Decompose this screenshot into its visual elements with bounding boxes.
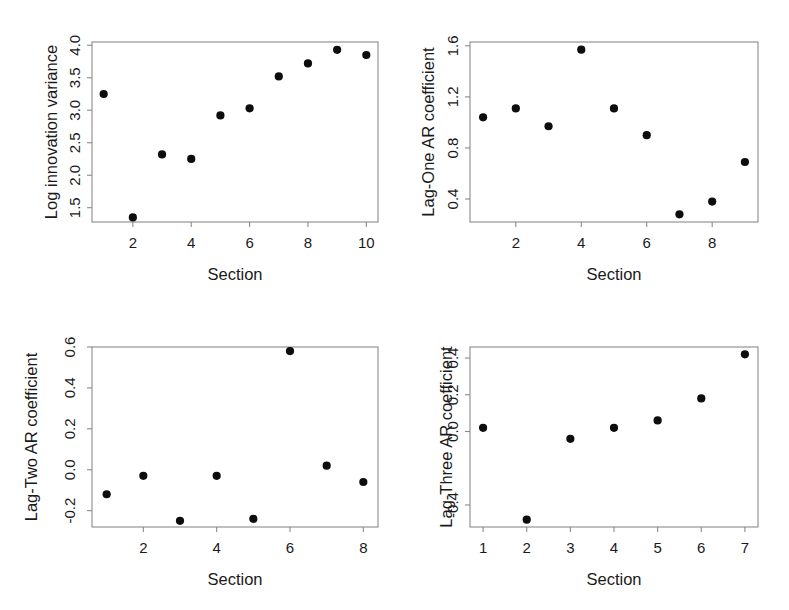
y-axis-title: Lag-Two AR coefficient: [22, 352, 40, 521]
y-tick-label: 0.4: [61, 377, 78, 398]
y-tick-label: -0.2: [61, 498, 78, 524]
data-point: [187, 155, 195, 163]
x-tick-label: 6: [697, 539, 705, 556]
x-tick-label: 4: [577, 234, 585, 251]
x-tick-label: 4: [212, 539, 220, 556]
plot-frame: [92, 347, 378, 527]
x-tick-label: 2: [523, 539, 531, 556]
data-point: [654, 416, 662, 424]
data-point: [158, 150, 166, 158]
y-tick-label: 2.5: [66, 132, 83, 153]
x-tick-label: 1: [479, 539, 487, 556]
data-point: [479, 424, 487, 432]
x-axis-title: Section: [207, 570, 262, 588]
data-point: [286, 347, 294, 355]
data-point: [577, 46, 585, 54]
x-tick-label: 2: [129, 234, 137, 251]
plot-frame: [470, 42, 758, 222]
data-point: [216, 111, 224, 119]
y-tick-label: 1.2: [444, 86, 461, 107]
plot-frame: [470, 347, 758, 527]
y-tick-label: 0.2: [61, 418, 78, 439]
data-point: [479, 113, 487, 121]
x-tick-label: 6: [245, 234, 253, 251]
scatter-panel-2: 24680.40.81.21.6Lag-One AR coefficientSe…: [395, 0, 789, 305]
data-point: [544, 122, 552, 130]
x-tick-label: 7: [741, 539, 749, 556]
data-point: [643, 131, 651, 139]
y-axis-title: Lag-Three AR coefficient: [437, 346, 455, 528]
y-axis-title: Log innovation variance: [42, 45, 60, 219]
y-tick-label: 0.0: [61, 459, 78, 480]
data-point: [610, 424, 618, 432]
data-point: [304, 59, 312, 67]
data-point: [697, 394, 705, 402]
x-tick-label: 5: [653, 539, 661, 556]
y-tick-label: 3.0: [66, 100, 83, 121]
y-tick-label: 0.8: [444, 138, 461, 159]
y-tick-label: 2.0: [66, 165, 83, 186]
data-point: [213, 472, 221, 480]
figure-container: 2468101.52.02.53.03.54.0Log innovation v…: [0, 0, 789, 610]
x-tick-label: 8: [708, 234, 716, 251]
x-tick-label: 6: [643, 234, 651, 251]
data-point: [249, 515, 257, 523]
data-point: [708, 197, 716, 205]
scatter-panel-3: 2468-0.20.00.20.40.6Lag-Two AR coefficie…: [0, 305, 394, 610]
data-point: [139, 472, 147, 480]
data-point: [103, 490, 111, 498]
data-point: [359, 478, 367, 486]
x-tick-label: 10: [358, 234, 375, 251]
data-point: [129, 213, 137, 221]
data-point: [512, 104, 520, 112]
scatter-panel-1: 2468101.52.02.53.03.54.0Log innovation v…: [0, 0, 394, 305]
data-point: [323, 462, 331, 470]
data-point: [275, 72, 283, 80]
y-tick-label: 1.6: [444, 35, 461, 56]
y-tick-label: 1.5: [66, 197, 83, 218]
data-point: [362, 51, 370, 59]
x-tick-label: 6: [286, 539, 294, 556]
data-point: [333, 46, 341, 54]
x-tick-label: 2: [512, 234, 520, 251]
data-point: [176, 517, 184, 525]
y-tick-label: 0.4: [444, 189, 461, 210]
y-tick-label: 4.0: [66, 35, 83, 56]
data-point: [741, 158, 749, 166]
data-point: [100, 90, 108, 98]
x-tick-label: 2: [139, 539, 147, 556]
x-axis-title: Section: [586, 265, 641, 283]
x-tick-label: 3: [566, 539, 574, 556]
scatter-panel-4: 1234567-0.40.00.20.4Lag-Three AR coeffic…: [395, 305, 789, 610]
data-point: [741, 350, 749, 358]
plot-area-4: 1234567-0.40.00.20.4Lag-Three AR coeffic…: [395, 305, 789, 610]
y-axis-title: Lag-One AR coefficient: [419, 47, 437, 217]
data-point: [245, 104, 253, 112]
data-point: [675, 210, 683, 218]
plot-area-2: 24680.40.81.21.6Lag-One AR coefficientSe…: [395, 0, 789, 305]
data-point: [523, 516, 531, 524]
x-tick-label: 4: [187, 234, 195, 251]
x-axis-title: Section: [586, 570, 641, 588]
x-axis-title: Section: [207, 265, 262, 283]
data-point: [566, 435, 574, 443]
plot-frame: [92, 42, 378, 222]
x-tick-label: 4: [610, 539, 618, 556]
y-tick-label: 0.6: [61, 337, 78, 358]
data-point: [610, 104, 618, 112]
x-tick-label: 8: [359, 539, 367, 556]
x-tick-label: 8: [304, 234, 312, 251]
y-tick-label: 3.5: [66, 67, 83, 88]
plot-area-3: 2468-0.20.00.20.40.6Lag-Two AR coefficie…: [0, 305, 394, 610]
plot-area-1: 2468101.52.02.53.03.54.0Log innovation v…: [0, 0, 394, 305]
